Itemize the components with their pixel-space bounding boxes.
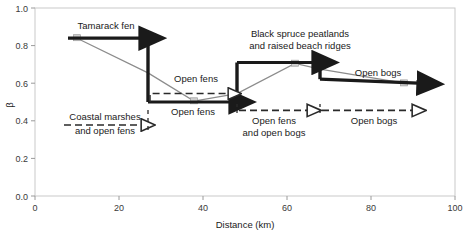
y-tick-label-5: 1.0	[15, 4, 28, 14]
label-open-bogs-solid: Open bogs	[355, 67, 402, 78]
y-tick-label-4: 0.8	[15, 41, 28, 51]
solid-arrow-open-fens: Open fens	[148, 102, 230, 117]
y-tick-label-1: 0.2	[15, 154, 28, 164]
x-tick-label-3: 60	[282, 203, 292, 213]
label-open-fens-solid: Open fens	[171, 106, 215, 117]
y-tick-label-0: 0.0	[15, 192, 28, 202]
x-tick-label-1: 20	[114, 203, 124, 213]
dashed-arrow-coastal-marshes: Coastal marshes and open fens	[64, 110, 148, 136]
plot-frame	[35, 8, 455, 196]
x-tick-label-4: 80	[366, 203, 376, 213]
dashed-arrow-open-fens-and-bogs: Open fens and open bogs	[237, 104, 307, 138]
x-axis-ticks	[35, 196, 455, 200]
x-tick-label-5: 100	[447, 203, 462, 213]
label-tamarack-fen: Tamarack fen	[77, 20, 134, 31]
figure-container: 0.0 0.2 0.4 0.6 0.8 1.0 0 20 40 60 80 10…	[0, 0, 466, 235]
label-coastal-marshes-line1: Coastal marshes	[69, 111, 141, 122]
label-coastal-marshes-line2: and open fens	[75, 125, 135, 136]
y-axis-tick-labels: 0.0 0.2 0.4 0.6 0.8 1.0	[15, 4, 28, 202]
label-black-spruce-line2: and raised beach ridges	[249, 40, 351, 51]
y-axis-title: β	[4, 102, 15, 108]
y-tick-label-2: 0.4	[15, 116, 28, 126]
label-open-fens-dashed: Open fens	[174, 73, 218, 84]
dashed-arrow-open-bogs: Open bogs	[320, 104, 412, 126]
y-tick-label-3: 0.6	[15, 79, 28, 89]
x-axis-title: Distance (km)	[216, 219, 275, 230]
x-axis-tick-labels: 0 20 40 60 80 100	[32, 203, 462, 213]
solid-arrow-black-spruce: Black spruce peatlands and raised beach …	[237, 28, 351, 63]
x-tick-label-0: 0	[32, 203, 37, 213]
label-open-fens-bogs-line1: Open fens	[252, 115, 296, 126]
label-black-spruce-line1: Black spruce peatlands	[251, 28, 349, 39]
chart-svg: 0.0 0.2 0.4 0.6 0.8 1.0 0 20 40 60 80 10…	[0, 0, 466, 235]
y-axis-ticks	[31, 8, 35, 196]
label-open-bogs-dashed: Open bogs	[351, 115, 398, 126]
label-open-fens-bogs-line2: and open bogs	[243, 127, 306, 138]
x-tick-label-2: 40	[198, 203, 208, 213]
